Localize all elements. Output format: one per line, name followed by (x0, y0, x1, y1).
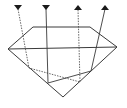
ray-2-line (46, 9, 105, 83)
arrow-up-icon (74, 5, 82, 10)
ray-3-path (74, 5, 82, 10)
pavilion-right-edge (63, 47, 117, 97)
gem-diagram (0, 0, 127, 108)
pavilion-left-edge (8, 49, 63, 97)
ray-1-line (18, 9, 80, 82)
crown-left-edge (8, 27, 33, 49)
ray-2-path (42, 5, 105, 83)
arrow-down-icon (14, 5, 22, 10)
girdle-line (8, 47, 117, 49)
gem-outline (8, 27, 117, 97)
arrow-down-icon (42, 5, 50, 10)
arrow-up-icon (101, 5, 109, 10)
diagram-svg (0, 0, 127, 108)
ray-4-path (101, 5, 109, 10)
crown-right-edge (90, 27, 117, 47)
